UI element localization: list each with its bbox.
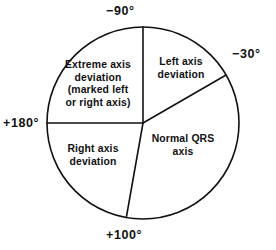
axis-label-plus-180: +180° <box>3 116 39 130</box>
radius-minus-30-line <box>143 75 226 123</box>
axis-label-minus-90: −90° <box>106 4 135 18</box>
sector-label-right-axis-deviation: Right axis deviation <box>58 143 128 168</box>
sector-label-extreme-axis-deviation: Extreme axis deviation (marked left or r… <box>57 59 139 109</box>
hexaxial-reference-diagram: −90° −30° +180° +100° Extreme axis devia… <box>0 0 276 250</box>
axis-label-minus-30: −30° <box>232 47 261 61</box>
sector-label-normal-qrs-axis: Normal QRS axis <box>148 133 218 158</box>
axis-label-plus-100: +100° <box>106 228 142 242</box>
radius-plus-100-line <box>126 123 143 218</box>
diagram-canvas <box>0 0 276 250</box>
sector-label-left-axis-deviation: Left axis deviation <box>150 56 212 81</box>
